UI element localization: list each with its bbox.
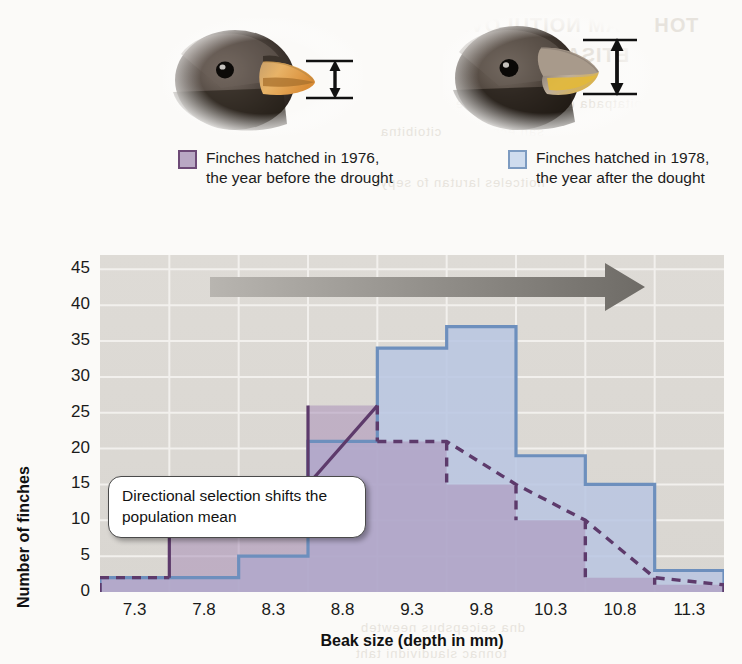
legend-label-1976: Finches hatched in 1976, the year before… xyxy=(206,148,393,189)
y-axis-tick: 25 xyxy=(54,402,90,422)
y-axis-tick: 15 xyxy=(54,473,90,493)
legend-label-1976-line1: Finches hatched in 1976, xyxy=(206,148,393,168)
x-axis-tick: 9.8 xyxy=(470,600,494,620)
y-axis-tick: 5 xyxy=(54,545,90,565)
x-axis-tick: 11.3 xyxy=(673,600,705,620)
legend-label-1978-line1: Finches hatched in 1978, xyxy=(536,148,709,168)
y-axis-tick-labels: 051015202530354045 xyxy=(50,228,90,664)
legend-label-1978: Finches hatched in 1978, the year after … xyxy=(536,148,709,189)
x-axis-tick: 7.3 xyxy=(123,600,147,620)
x-axis-tick: 7.8 xyxy=(192,600,216,620)
plot-area xyxy=(100,255,724,592)
x-axis-tick: 9.3 xyxy=(400,600,424,620)
callout-box: Directional selection shifts the populat… xyxy=(108,476,366,538)
x-axis-tick-labels: 7.37.88.38.89.39.810.310.811.3 xyxy=(100,600,724,626)
x-axis-tick: 10.3 xyxy=(534,600,567,620)
x-axis-tick: 10.8 xyxy=(603,600,636,620)
legend-label-1978-line2: the year after the dought xyxy=(536,168,709,188)
legend-label-1976-line2: the year before the drought xyxy=(206,168,393,188)
y-axis-tick: 0 xyxy=(54,581,90,601)
x-axis-tick: 8.3 xyxy=(262,600,286,620)
legend-item-1978: Finches hatched in 1978, the year after … xyxy=(508,148,709,189)
finch-photo-1978 xyxy=(443,14,653,136)
legend-swatch-1978 xyxy=(508,150,527,169)
y-axis-tick: 30 xyxy=(54,366,90,386)
x-axis-title: Beak size (depth in mm) xyxy=(100,632,724,650)
callout-text: Directional selection shifts the populat… xyxy=(122,486,353,527)
y-axis-title: Number of finches xyxy=(15,427,33,647)
y-axis-tick: 20 xyxy=(54,438,90,458)
legend-item-1976: Finches hatched in 1976, the year before… xyxy=(178,148,393,189)
y-axis-tick: 40 xyxy=(54,294,90,314)
y-axis-tick: 45 xyxy=(54,258,90,278)
histogram-chart: Number of finches 051015202530354045 xyxy=(0,228,742,664)
x-axis-tick: 8.8 xyxy=(331,600,355,620)
y-axis-tick: 10 xyxy=(54,509,90,529)
finch-photo-1976 xyxy=(163,18,363,136)
y-axis-tick: 35 xyxy=(54,330,90,350)
legend-swatch-1976 xyxy=(178,150,197,169)
